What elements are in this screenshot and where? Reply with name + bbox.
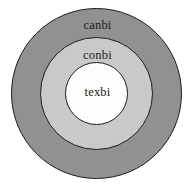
- middle-circle-label: conbi: [0, 49, 195, 62]
- outer-circle-label: canbi: [0, 19, 195, 32]
- inner-circle-label: texbi: [0, 86, 195, 99]
- concentric-circle-diagram: canbi conbi texbi: [0, 0, 195, 185]
